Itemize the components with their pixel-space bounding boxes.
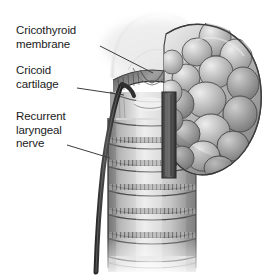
label-cricoid-cartilage: Cricoid cartilage bbox=[16, 64, 59, 91]
anatomy-figure: Cricothyroid membrane Cricoid cartilage … bbox=[0, 0, 273, 277]
label-cricothyroid-membrane: Cricothyroid membrane bbox=[16, 24, 76, 51]
label-recurrent-laryngeal-nerve: Recurrent laryngeal nerve bbox=[16, 110, 66, 151]
recurrent-laryngeal-nerve-band bbox=[162, 92, 176, 178]
